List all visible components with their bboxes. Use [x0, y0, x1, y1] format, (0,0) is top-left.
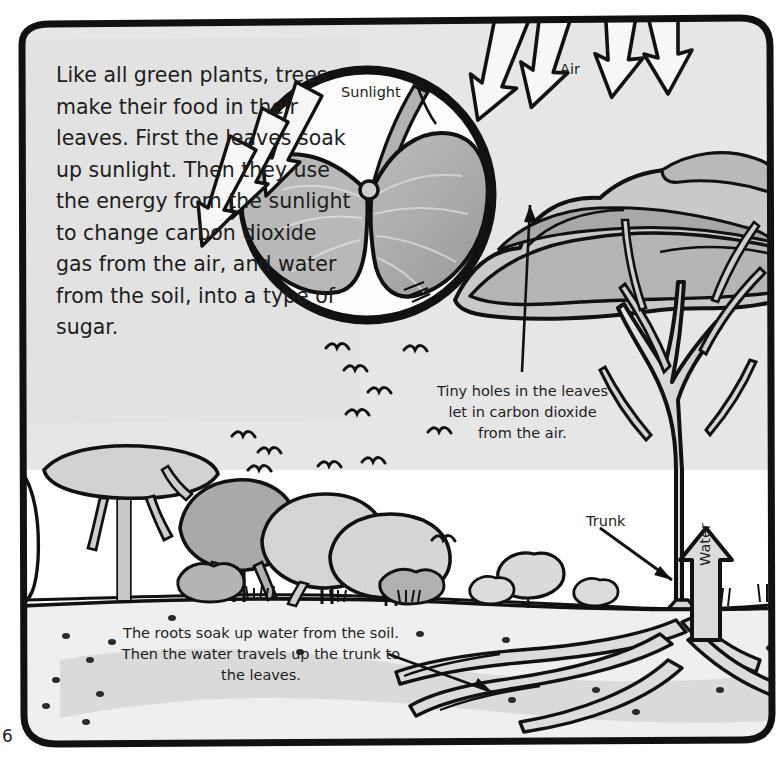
scene-contents	[0, 0, 779, 759]
soil-region	[20, 599, 779, 744]
illustration-page: Like all green plants, trees make their …	[0, 0, 779, 759]
scene-artwork	[0, 0, 779, 759]
